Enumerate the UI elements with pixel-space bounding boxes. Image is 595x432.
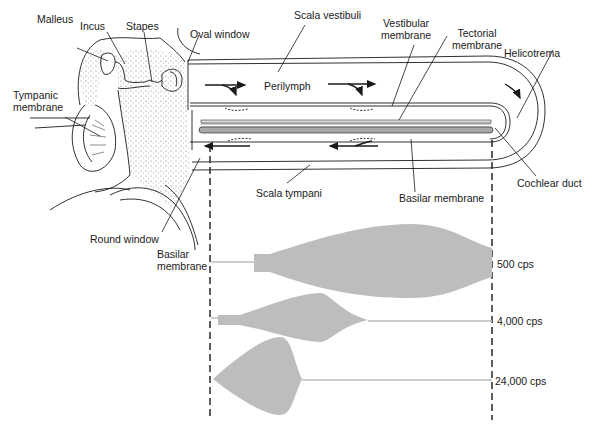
middle-ear	[30, 28, 200, 250]
label-tympanic-membrane: Tympanic membrane	[13, 89, 63, 113]
label-helicotrema: Helicotrema	[504, 47, 560, 59]
envelope-500cps	[254, 224, 492, 298]
envelope-24000cps	[213, 337, 302, 415]
label-perilymph: Perilymph	[264, 80, 311, 92]
label-cochlear-duct: Cochlear duct	[517, 177, 582, 189]
label-4000cps: 4,000 cps	[497, 315, 543, 327]
label-oval-window: Oval window	[190, 28, 250, 40]
cochlea-diagram: Malleus Incus Stapes Oval window Scala v…	[0, 0, 595, 432]
label-scala-tympani: Scala tympani	[256, 187, 322, 199]
label-basilar-membrane: Basilar membrane	[399, 192, 484, 204]
label-vestibular-membrane: Vestibular membrane	[368, 17, 444, 41]
label-500cps: 500 cps	[497, 258, 534, 270]
label-round-window: Round window	[90, 233, 159, 245]
diagram-artwork	[0, 0, 595, 432]
flow-arrows	[205, 84, 520, 146]
label-stapes: Stapes	[126, 20, 159, 32]
label-basilar-membrane-lower: Basilar membrane	[157, 248, 207, 272]
label-24000cps: 24,000 cps	[495, 375, 546, 387]
label-incus: Incus	[80, 20, 105, 32]
label-malleus: Malleus	[37, 13, 73, 25]
label-tectorial-membrane: Tectorial membrane	[442, 27, 512, 51]
envelope-4000cps	[218, 293, 368, 342]
label-scala-vestibuli: Scala vestibuli	[294, 9, 361, 21]
wave-envelopes	[211, 224, 492, 415]
